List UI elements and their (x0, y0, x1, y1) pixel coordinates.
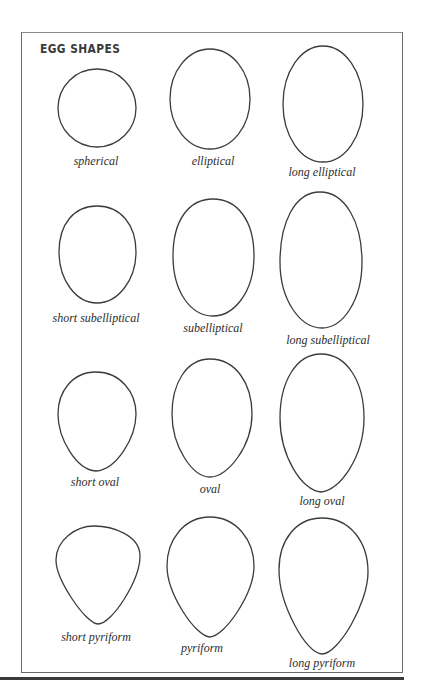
label-long-oval: long oval (300, 494, 345, 509)
egg-spherical (58, 69, 136, 147)
label-oval: oval (200, 482, 221, 497)
egg-subelliptical (173, 199, 254, 316)
egg-long-pyriform (279, 518, 368, 654)
label-spherical: spherical (74, 154, 119, 169)
egg-short-subelliptical (59, 206, 136, 303)
bottom-rule-divider (0, 677, 404, 680)
label-elliptical: elliptical (192, 154, 235, 169)
egg-short-pyriform (56, 526, 140, 624)
label-short-pyriform: short pyriform (61, 630, 131, 645)
label-long-pyriform: long pyriform (289, 656, 355, 671)
egg-short-oval (58, 372, 136, 471)
label-pyriform: pyriform (181, 641, 223, 656)
label-short-oval: short oval (71, 475, 119, 490)
label-short-subelliptical: short subelliptical (53, 311, 140, 326)
label-long-subelliptical: long subelliptical (286, 333, 370, 348)
egg-long-subelliptical (280, 192, 362, 328)
egg-long-elliptical (283, 46, 363, 162)
label-subelliptical: subelliptical (183, 321, 242, 336)
label-long-elliptical: long elliptical (289, 165, 356, 180)
egg-pyriform (167, 517, 254, 637)
egg-long-oval (280, 354, 364, 492)
egg-oval (172, 359, 252, 477)
egg-elliptical (170, 49, 250, 149)
